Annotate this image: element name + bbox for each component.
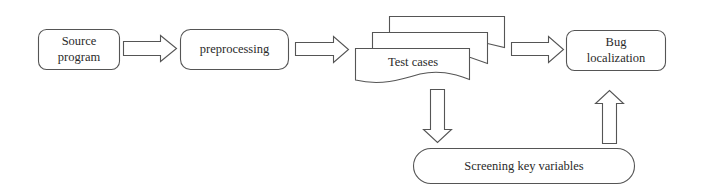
test-cases-label: Test cases (388, 55, 438, 69)
node-bug-localization: Bug localization (567, 31, 666, 71)
bug-localization-label-line2: localization (587, 51, 646, 65)
node-source-program: Source program (39, 30, 120, 70)
arrow-down-icon (424, 90, 452, 143)
arrow-right-icon (512, 37, 564, 63)
arrow-right-icon (296, 37, 349, 63)
node-preprocessing: preprocessing (181, 30, 289, 70)
arrow-up-icon (596, 91, 624, 144)
screening-label: Screening key variables (464, 159, 584, 173)
source-program-label-line1: Source (62, 34, 97, 48)
node-screening-key-variables: Screening key variables (414, 149, 635, 184)
flowchart-canvas: Source program preprocessing Test cases … (0, 0, 706, 194)
node-test-cases: Test cases (356, 17, 505, 83)
source-program-label-line2: program (58, 50, 101, 64)
preprocessing-label: preprocessing (200, 42, 270, 56)
bug-localization-label-line1: Bug (606, 35, 628, 49)
arrow-right-icon (124, 36, 177, 62)
